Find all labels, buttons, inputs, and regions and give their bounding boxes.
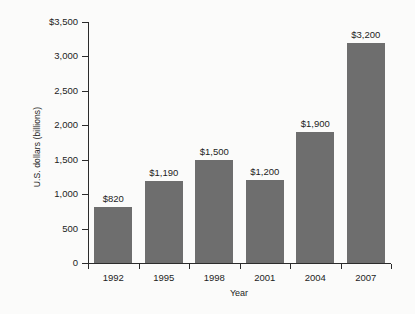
y-tick-mark	[82, 160, 88, 161]
bar	[296, 132, 334, 263]
x-tick-mark	[139, 264, 140, 269]
y-tick-mark	[82, 22, 88, 23]
bar	[347, 43, 385, 263]
y-tick-mark	[82, 56, 88, 57]
y-tick-label: 2,000	[0, 120, 78, 130]
x-tick-label: 2007	[338, 272, 394, 283]
bar-chart: U.S. dollars (billions) 05001,0001,5002,…	[0, 0, 415, 314]
x-tick-label: 2001	[237, 272, 293, 283]
y-tick-label: 1,000	[0, 189, 78, 199]
bar-value-label: $820	[78, 193, 148, 204]
bar	[94, 207, 132, 263]
y-tick-label: 1,500	[0, 155, 78, 165]
y-axis-line	[88, 22, 89, 264]
y-tick-label: 3,000	[0, 51, 78, 61]
bar-value-label: $3,200	[331, 29, 401, 40]
x-tick-label: 1998	[186, 272, 242, 283]
y-tick-label: 2,500	[0, 86, 78, 96]
bar-value-label: $1,900	[280, 118, 350, 129]
x-tick-mark	[341, 264, 342, 269]
x-tick-mark	[88, 264, 89, 269]
y-tick-label: 0	[0, 258, 78, 268]
x-tick-mark	[290, 264, 291, 269]
bar	[246, 180, 284, 263]
y-tick-label: 500	[0, 224, 78, 234]
bar-value-label: $1,500	[179, 146, 249, 157]
y-tick-mark	[82, 125, 88, 126]
bar-value-label: $1,200	[230, 166, 300, 177]
y-tick-mark	[82, 229, 88, 230]
bar	[145, 181, 183, 263]
y-tick-mark	[82, 91, 88, 92]
bar	[195, 160, 233, 263]
x-axis-title: Year	[88, 288, 390, 298]
x-tick-label: 1995	[136, 272, 192, 283]
x-tick-label: 2004	[287, 272, 343, 283]
x-tick-mark	[391, 264, 392, 269]
x-tick-label: 1992	[85, 272, 141, 283]
bar-value-label: $1,190	[129, 167, 199, 178]
x-tick-mark	[189, 264, 190, 269]
x-tick-mark	[240, 264, 241, 269]
y-tick-label: $3,500	[0, 17, 78, 27]
